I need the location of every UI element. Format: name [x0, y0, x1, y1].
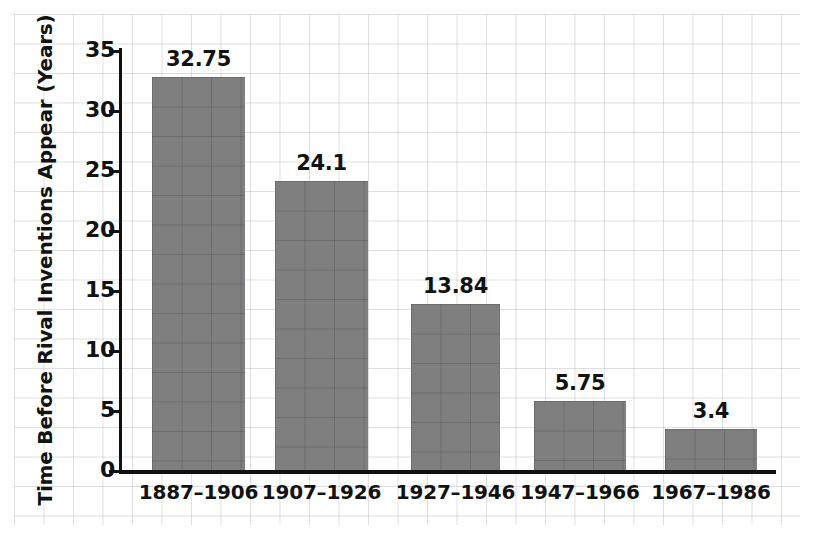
bar-3 — [534, 401, 626, 470]
bar-value-2: 13.84 — [411, 274, 500, 298]
y-tick-label-25: 25 — [85, 157, 115, 182]
y-axis-title: Time Before Rival Inventions Appear (Yea… — [28, 50, 62, 470]
bar-group-1: 24.1 1907–1926 — [275, 50, 368, 470]
y-tick-label-35: 35 — [85, 37, 115, 62]
bar-value-4: 3.4 — [665, 399, 757, 423]
bar-group-3: 5.75 1947–1966 — [534, 50, 626, 470]
bar-group-0: 32.75 1887–1906 — [152, 50, 245, 470]
x-tick-label-4: 1967–1986 — [643, 480, 779, 504]
bar-4 — [665, 429, 757, 470]
bar-value-1: 24.1 — [275, 151, 368, 175]
plot-area: 35 30 25 20 15 10 5 0 — [122, 50, 776, 470]
bar-group-4: 3.4 1967–1986 — [665, 50, 757, 470]
y-tick-label-0: 0 — [100, 457, 115, 482]
bar-2 — [411, 304, 500, 470]
bar-1 — [275, 181, 368, 470]
y-tick-label-30: 30 — [85, 97, 115, 122]
y-axis-title-text: Time Before Rival Inventions Appear (Yea… — [33, 14, 57, 505]
x-tick-label-2: 1927–1946 — [389, 480, 522, 504]
bar-value-3: 5.75 — [534, 371, 626, 395]
x-axis-line — [119, 470, 776, 474]
y-tick-label-10: 10 — [85, 337, 115, 362]
x-tick-label-0: 1887–1906 — [130, 480, 267, 504]
bar-value-0: 32.75 — [152, 47, 245, 71]
bar-0 — [152, 77, 245, 470]
y-tick-label-5: 5 — [100, 397, 115, 422]
bar-group-2: 13.84 1927–1946 — [411, 50, 500, 470]
chart-figure: Time Before Rival Inventions Appear (Yea… — [0, 0, 814, 542]
x-tick-label-1: 1907–1926 — [253, 480, 390, 504]
y-tick-label-15: 15 — [85, 277, 115, 302]
x-tick-label-3: 1947–1966 — [512, 480, 648, 504]
y-tick-label-20: 20 — [85, 217, 115, 242]
